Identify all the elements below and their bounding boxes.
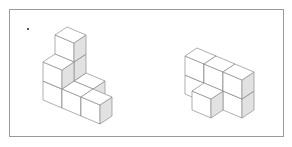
cube-diagram xyxy=(0,0,292,147)
cube xyxy=(81,89,112,124)
left-cube-structure xyxy=(43,27,112,124)
right-cube-structure xyxy=(185,48,254,118)
